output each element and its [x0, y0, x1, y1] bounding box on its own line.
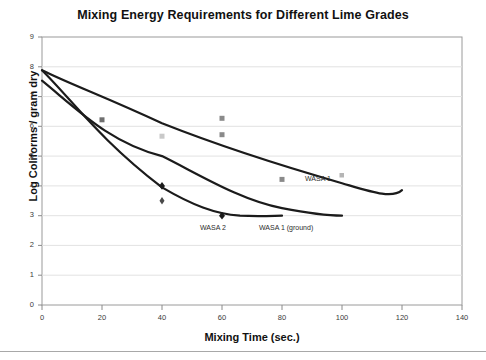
y-tick-label: 8	[14, 62, 34, 71]
series-label-wasa-1: WASA 1	[305, 175, 331, 182]
y-tick-label: 5	[14, 151, 34, 160]
y-axis-title: Log Coliforms / gram dry	[27, 46, 39, 226]
y-tick-label: 2	[14, 240, 34, 249]
y-tick-label: 1	[14, 270, 34, 279]
x-tick-label: 60	[207, 313, 237, 322]
chart-figure: Mixing Energy Requirements for Different…	[0, 0, 486, 360]
y-tick-label: 6	[14, 121, 34, 130]
x-axis-ticks	[42, 305, 462, 310]
data-point-marker	[340, 173, 345, 178]
x-tick-label: 0	[27, 313, 57, 322]
x-tick-label: 100	[327, 313, 357, 322]
series-label-wasa-2: WASA 2	[200, 224, 226, 231]
x-tick-label: 40	[147, 313, 177, 322]
data-point-marker	[220, 116, 225, 121]
data-point-marker	[100, 117, 105, 122]
y-tick-label: 0	[14, 300, 34, 309]
data-point-marker	[280, 177, 285, 182]
y-tick-label: 7	[14, 91, 34, 100]
data-point-marker	[220, 132, 225, 137]
x-tick-label: 80	[267, 313, 297, 322]
plot-area	[0, 0, 486, 360]
x-axis-title: Mixing Time (sec.)	[42, 331, 462, 343]
series-label-wasa-1-ground: WASA 1 (ground)	[259, 224, 313, 231]
x-tick-label: 20	[87, 313, 117, 322]
plot-frame	[42, 37, 462, 305]
y-tick-label: 9	[14, 32, 34, 41]
page-divider	[0, 351, 486, 352]
data-point-marker	[160, 134, 165, 139]
y-tick-label: 3	[14, 210, 34, 219]
y-tick-label: 4	[14, 181, 34, 190]
x-tick-label: 140	[447, 313, 477, 322]
x-tick-label: 120	[387, 313, 417, 322]
